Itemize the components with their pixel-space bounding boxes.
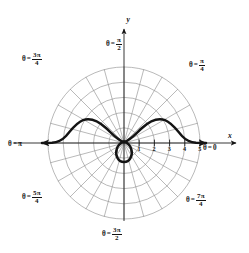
fraction: 3π 4 [32, 52, 42, 67]
radial-tick-3: 3 [168, 145, 171, 152]
fraction: π 2 [116, 37, 122, 52]
polar-plot-figure: x y 1 2 3 4 5 θ= π 2 θ= π 4 θ= 3π 4 θ=π … [0, 0, 249, 253]
pi-symbol: π [18, 140, 22, 148]
polar-plot-canvas [0, 0, 249, 253]
radial-tick-1: 1 [137, 145, 140, 152]
y-axis-label: y [127, 15, 130, 24]
angle-label-theta-3pi-over-2: θ= 3π 2 [102, 227, 122, 242]
angle-label-theta-pi-over-4: θ= π 4 [189, 58, 205, 73]
angle-label-theta-5pi-over-4: θ= 5π 4 [22, 190, 42, 205]
angle-label-theta-pi-over-2: θ= π 2 [106, 37, 122, 52]
zero-symbol: 0 [213, 144, 217, 152]
radial-tick-2: 2 [153, 145, 156, 152]
x-axis-label: x [228, 131, 232, 140]
angle-label-theta-7pi-over-4: θ= 7π 4 [186, 193, 206, 208]
angle-label-theta-pi: θ=π [8, 141, 22, 148]
fraction: π 4 [199, 58, 205, 73]
angle-label-theta-3pi-over-4: θ= 3π 4 [22, 52, 42, 67]
angle-label-theta-0: θ=0 [203, 145, 217, 152]
fraction: 7π 4 [196, 193, 206, 208]
radial-tick-5: 5 [198, 145, 201, 152]
fraction: 3π 2 [112, 227, 122, 242]
fraction: 5π 4 [32, 190, 42, 205]
radial-tick-4: 4 [183, 145, 186, 152]
